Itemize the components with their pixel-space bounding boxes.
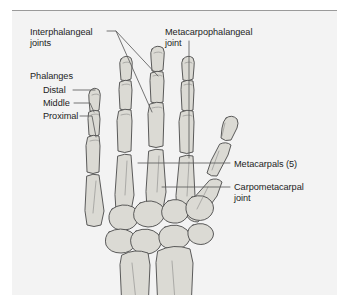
little-distal-phalanx: [89, 88, 101, 112]
label-phalanges: Phalanges: [30, 71, 73, 82]
label-metacarpophalangeal-joint: Metacarpophalangealjoint: [165, 27, 252, 48]
label-cmc-line2: joint: [234, 193, 251, 203]
carpal-trapezoid: [162, 200, 189, 224]
ring-proximal-phalanx: [117, 109, 132, 152]
label-interphalangeal-joints: Interphalangealjoints: [30, 27, 93, 48]
label-middle-phalanx: Middle: [43, 98, 70, 109]
index-distal-phalanx: [182, 56, 195, 81]
diagram-panel: Interphalangealjoints Phalanges Distal M…: [12, 10, 337, 295]
label-interphalangeal-line2: joints: [30, 38, 51, 48]
radius: [156, 246, 193, 295]
finger-little: [85, 88, 104, 226]
ring-distal-phalanx: [120, 56, 133, 81]
carpal-pisiform: [188, 224, 214, 245]
little-proximal-phalanx: [86, 135, 100, 173]
bone-group: [85, 46, 238, 295]
little-metacarpal: [85, 174, 104, 226]
middle-distal-phalanx: [151, 46, 165, 72]
label-mcp-line2: joint: [165, 38, 182, 48]
label-metacarpals: Metacarpals (5): [234, 159, 297, 170]
ulna: [120, 251, 150, 295]
label-cmc-line1: Carpometacarpal: [234, 182, 304, 192]
label-mcp-line1: Metacarpophalangeal: [165, 27, 252, 37]
thumb-proximal-phalanx: [207, 143, 231, 176]
carpal-lunate: [131, 229, 162, 254]
forearm-bones: [120, 246, 193, 295]
label-distal-phalanx: Distal: [43, 85, 66, 96]
hand-skeleton-illustration: [12, 11, 337, 295]
finger-index: [176, 56, 195, 213]
ring-metacarpal: [115, 154, 134, 212]
label-proximal-phalanx: Proximal: [43, 111, 78, 122]
finger-ring: [115, 56, 134, 212]
index-proximal-phalanx: [179, 110, 194, 153]
carpal-capitate: [134, 201, 165, 227]
carpal-trapezium: [186, 196, 214, 221]
label-carpometacarpal-joint: Carpometacarpaljoint: [234, 182, 304, 203]
label-interphalangeal-line1: Interphalangeal: [30, 27, 93, 37]
finger-middle: [146, 46, 166, 210]
carpal-scaphoid: [159, 225, 190, 249]
figure-root: Interphalangealjoints Phalanges Distal M…: [0, 0, 342, 301]
